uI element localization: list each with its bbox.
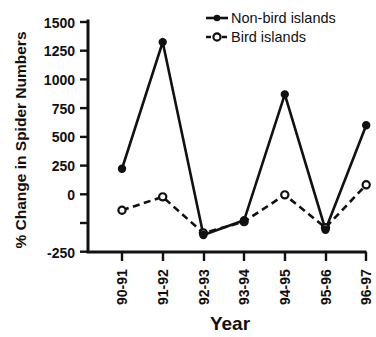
y-tick-label: 1000: [44, 72, 75, 88]
x-tick-label: 93-94: [236, 269, 252, 305]
x-tick-labels: 90-91 91-92 92-93 93-94 94-95 95-96 96-9…: [114, 269, 374, 305]
y-tick-label: 0: [67, 187, 75, 203]
series-markers-non-bird-islands: [119, 39, 370, 239]
data-point: [159, 39, 166, 46]
y-tick-label: 1250: [44, 43, 75, 59]
x-tick-label: 94-95: [277, 269, 293, 305]
axis-frame: [88, 21, 365, 252]
data-point: [241, 217, 248, 224]
chart-legend: Non-bird islands Bird islands: [206, 10, 336, 45]
legend-item-non-bird-islands[interactable]: Non-bird islands: [206, 10, 336, 26]
x-tick-label: 90-91: [114, 269, 130, 305]
y-tick-label: 750: [52, 101, 76, 117]
data-point: [363, 122, 370, 129]
spider-numbers-line-chart: % Change in Spider Numbers 1500 1250 100…: [0, 0, 376, 337]
y-tick-label: 500: [52, 129, 76, 145]
data-point: [159, 193, 166, 200]
legend-label-non-bird-islands: Non-bird islands: [231, 10, 336, 26]
y-tick-labels: 1500 1250 1000 750 500 250 0 -250: [44, 15, 75, 262]
data-point: [118, 207, 125, 214]
x-tick-label: 95-96: [318, 269, 334, 305]
chart-canvas: % Change in Spider Numbers 1500 1250 100…: [0, 0, 376, 337]
x-tick-label: 92-93: [196, 269, 212, 305]
y-tick-label: 250: [52, 158, 76, 174]
data-point: [200, 232, 207, 239]
legend-marker-filled-circle-icon: [214, 15, 221, 22]
data-point: [281, 191, 288, 198]
legend-item-bird-islands[interactable]: Bird islands: [206, 29, 306, 45]
y-tick-label: -250: [47, 245, 75, 261]
data-point: [363, 181, 370, 188]
series-line-non-bird-islands: [122, 42, 366, 235]
y-axis-title: % Change in Spider Numbers: [12, 31, 29, 248]
legend-marker-open-circle-icon: [213, 33, 220, 40]
x-tick-label: 91-92: [155, 269, 171, 305]
legend-label-bird-islands: Bird islands: [231, 29, 306, 45]
y-tick-label: 1500: [44, 15, 75, 31]
x-tick-label: 96-97: [358, 269, 374, 305]
data-point: [281, 91, 288, 98]
x-axis-title: Year: [210, 313, 251, 334]
data-point: [322, 226, 329, 233]
data-point: [119, 165, 126, 172]
series-markers-bird-islands: [118, 181, 369, 236]
